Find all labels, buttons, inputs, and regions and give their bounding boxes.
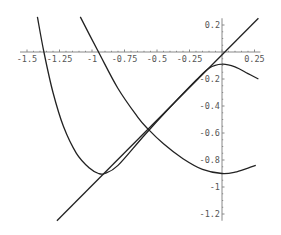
y-tick-label: -0.2 bbox=[200, 74, 220, 84]
x-tick-label: -1.5 bbox=[17, 54, 37, 64]
series-1 bbox=[37, 17, 258, 174]
x-tick-label: -0.25 bbox=[177, 54, 203, 64]
series-2 bbox=[80, 17, 256, 174]
chart-canvas: -1.5-1.25-1-0.75-0.5-0.250.250.2-0.2-0.4… bbox=[0, 0, 281, 235]
y-tick-label: 0.2 bbox=[205, 20, 220, 30]
series-0 bbox=[57, 18, 259, 221]
y-tick-label: -1.2 bbox=[200, 209, 220, 219]
x-tick-label: -0.5 bbox=[147, 54, 167, 64]
y-tick-label: -0.8 bbox=[200, 155, 220, 165]
x-tick-label: -1 bbox=[87, 54, 97, 64]
x-tick-label: -0.75 bbox=[112, 54, 138, 64]
x-tick-label: 0.25 bbox=[244, 54, 264, 64]
y-tick-label: -1 bbox=[210, 182, 220, 192]
data-series bbox=[37, 17, 258, 221]
y-tick-label: -0.4 bbox=[200, 101, 220, 111]
x-tick-label: -1.25 bbox=[47, 54, 73, 64]
y-tick-label: -0.6 bbox=[200, 128, 220, 138]
